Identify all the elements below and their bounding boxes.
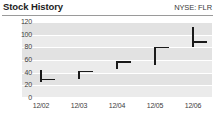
ohlc-bar-stem — [154, 47, 156, 65]
chart-gridline — [22, 35, 212, 36]
ohlc-close-tick — [154, 47, 169, 49]
x-axis-label: 12/02 — [33, 102, 50, 109]
chart-gridline — [22, 97, 212, 98]
ohlc-close-tick — [116, 61, 131, 63]
ohlc-bar-stem — [78, 71, 80, 79]
chart-gridline — [22, 85, 212, 86]
y-axis-label: 80 — [25, 43, 32, 50]
y-axis-label: 20 — [25, 81, 32, 88]
chart-plot-area — [22, 22, 212, 98]
ticker-symbol: NYSE: FLR — [174, 3, 212, 12]
page-title: Stock History — [3, 1, 63, 12]
x-axis-label: 12/06 — [185, 102, 202, 109]
y-axis-label: 60 — [25, 56, 32, 63]
y-axis-label: 120 — [21, 18, 32, 25]
ohlc-bar-stem — [116, 62, 118, 70]
x-axis-label: 12/03 — [71, 102, 88, 109]
chart-gridline — [22, 47, 212, 48]
stock-history-chart: 02040608010012012/0212/0312/0412/0512/06 — [0, 18, 215, 119]
header-divider — [2, 15, 213, 16]
x-axis-label: 12/05 — [147, 102, 164, 109]
chart-gridline — [22, 22, 212, 23]
stock-history-widget: Stock History NYSE: FLR 0204060801001201… — [0, 0, 215, 119]
ohlc-close-tick — [192, 41, 207, 43]
ohlc-close-tick — [40, 79, 55, 81]
widget-header: Stock History NYSE: FLR — [0, 0, 215, 17]
y-axis-label: 0 — [28, 94, 32, 101]
y-axis-label: 40 — [25, 69, 32, 76]
chart-gridline — [22, 73, 212, 74]
ohlc-close-tick — [78, 71, 93, 73]
ohlc-bar-stem — [192, 27, 194, 47]
y-axis-label: 100 — [21, 31, 32, 38]
x-axis-label: 12/04 — [109, 102, 126, 109]
chart-band — [22, 35, 212, 48]
